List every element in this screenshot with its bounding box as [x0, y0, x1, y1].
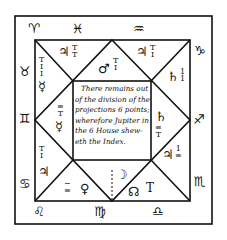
- planet-bottom-right: ☊: [128, 185, 140, 198]
- planet-top-right: ♃: [136, 45, 148, 58]
- sign-sagittarius: ♐: [193, 113, 205, 126]
- fraction-right-middle: ≡T: [155, 124, 162, 138]
- sign-aries: ♈: [28, 22, 40, 35]
- fraction-left-lower: TI: [39, 145, 44, 159]
- sign-taurus: ♉: [19, 65, 31, 78]
- planet-right-middle: ♄: [155, 110, 167, 123]
- sign-leo: ♌: [33, 205, 45, 218]
- center-line-5: the 6 House shew-: [75, 126, 151, 137]
- fraction-left-middle: ≡T: [57, 103, 64, 117]
- planet-right-upper: ♄: [167, 70, 179, 83]
- fraction-left-upper: TII: [39, 56, 44, 77]
- planet-bottom-center: ☽: [116, 168, 128, 181]
- center-line-3: projections 6 points;: [75, 105, 151, 116]
- planet-bottom-left: ♀: [80, 182, 90, 195]
- planet-right-lower: ♃: [162, 148, 174, 161]
- fraction-top-right: TI: [150, 44, 155, 58]
- sign-cancer: ♋: [19, 177, 31, 190]
- fraction-bottom-left: −≡: [64, 180, 71, 194]
- planet-top-left: ♃: [58, 45, 70, 58]
- center-inscription: There remains out of the division of the…: [75, 84, 151, 158]
- sign-virgo: ♍: [94, 205, 106, 218]
- sign-pisces: ♓: [72, 22, 84, 35]
- fraction-right-lower: 1≡: [175, 145, 182, 159]
- sign-gemini: ♊: [19, 112, 31, 125]
- fraction-top-center: TI: [113, 57, 118, 71]
- sign-capricorn: ♑: [194, 44, 206, 57]
- sign-scorpio: ♏: [194, 175, 206, 188]
- sign-aquarius: ♒: [133, 22, 145, 35]
- fraction-right-upper: 11: [180, 68, 185, 82]
- center-line-2: of the division of the: [75, 95, 151, 106]
- planet-left-upper: ☿: [38, 80, 46, 93]
- fraction-top-left: TT: [72, 44, 77, 58]
- planet-top-center: ♂: [98, 62, 110, 75]
- sign-libra: ♎: [152, 205, 164, 218]
- planet-left-middle: ☿: [55, 120, 63, 133]
- fraction-bottom-right: T: [146, 185, 154, 192]
- center-line-1: There remains out: [75, 84, 151, 95]
- center-line-6: eth the Index.: [75, 137, 151, 148]
- center-line-4: wherefore Jupiter in: [75, 116, 151, 127]
- planet-left-lower: ♃: [38, 165, 50, 178]
